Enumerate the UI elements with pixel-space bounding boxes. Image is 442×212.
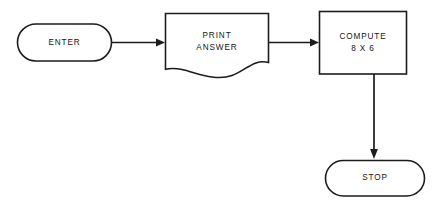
connector-print-to-compute-arrowhead [310,39,319,47]
node-compute-label: COMPUTE 8 X 6 [319,31,407,54]
node-print-answer-label: PRINT ANSWER [165,30,269,53]
connector-enter-to-print-arrowhead [156,39,165,47]
node-stop-label: STOP [325,172,425,184]
connector-compute-to-stop-arrowhead [370,149,378,159]
node-enter-label: ENTER [17,37,112,49]
flowchart-canvas: ENTER PRINT ANSWER COMPUTE 8 X 6 STOP [0,0,442,212]
